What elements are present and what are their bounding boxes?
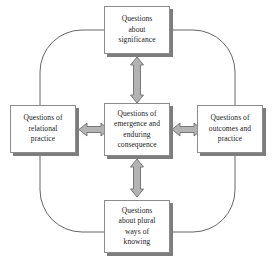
node-questions-of-emergence-and-enduring-consequence[interactable]: Questions ofemergence andenduringconsequ… (104, 103, 170, 156)
node-top-label: Questionsaboutsignificance (115, 14, 158, 45)
arrow-center-top (131, 57, 144, 103)
node-center-label: Questions ofemergence andenduringconsequ… (111, 109, 163, 150)
node-questions-about-significance[interactable]: Questionsaboutsignificance (104, 6, 170, 54)
node-questions-of-outcomes-and-practice[interactable]: Questions ofoutcomes andpractice (197, 105, 263, 153)
node-right-label: Questions ofoutcomes andpractice (206, 113, 254, 144)
node-questions-of-relational-practice[interactable]: Questions ofrelationalpractice (10, 105, 76, 153)
node-questions-about-plural-ways-of-knowing[interactable]: Questionsabout pluralways ofknowing (104, 200, 170, 253)
arrow-center-bottom (131, 159, 144, 197)
diagram-canvas: Questionsaboutsignificance Questions ofr… (0, 0, 275, 263)
node-left-label: Questions ofrelationalpractice (20, 113, 65, 144)
node-bottom-label: Questionsabout pluralways ofknowing (116, 206, 159, 247)
